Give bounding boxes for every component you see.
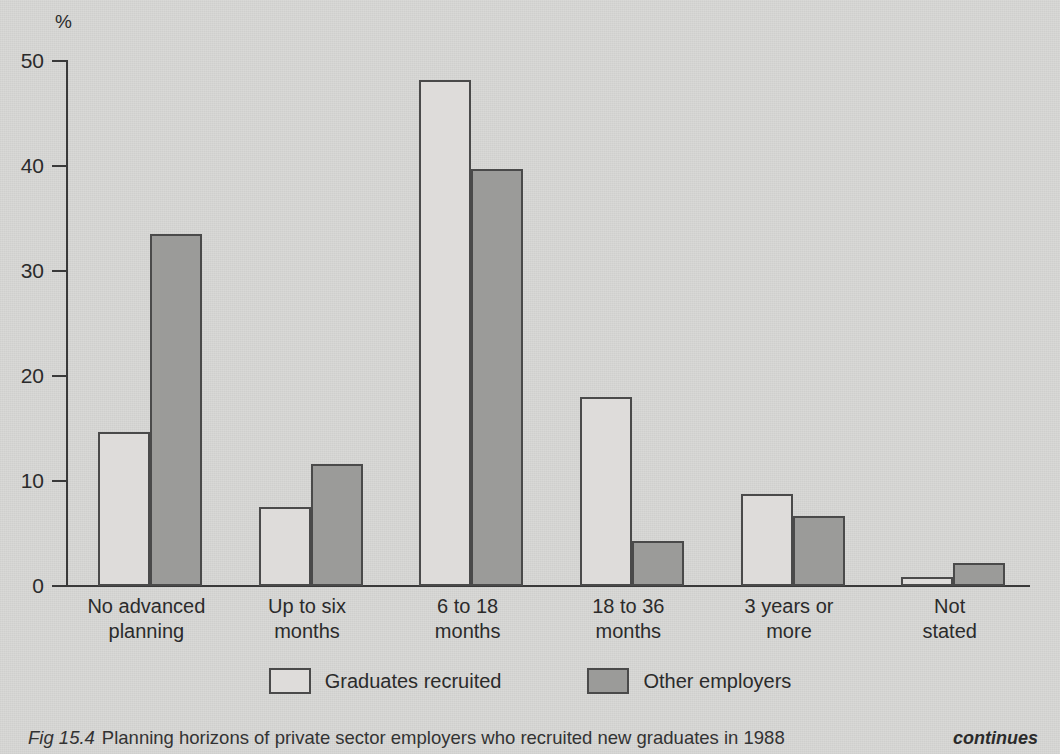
bar-0-3	[580, 397, 632, 586]
bar-0-1	[259, 507, 311, 586]
x-axis-category-label: Not stated	[869, 594, 1030, 644]
bar-0-5	[901, 577, 953, 586]
figure-caption-text: Planning horizons of private sector empl…	[102, 727, 785, 748]
figure-caption-row: Fig 15.4Planning horizons of private sec…	[28, 727, 1038, 749]
figure-container: % 50403020100 No advanced planningUp to …	[0, 0, 1060, 754]
bars-layer	[0, 0, 1060, 586]
x-axis-category-label: No advanced planning	[66, 594, 227, 644]
bar-1-5	[953, 563, 1005, 586]
bar-1-0	[150, 234, 202, 586]
bar-1-1	[311, 464, 363, 586]
x-axis-category-label: 6 to 18 months	[387, 594, 548, 644]
chart-legend: Graduates recruitedOther employers	[0, 668, 1060, 694]
legend-label: Other employers	[643, 671, 791, 691]
bar-0-0	[98, 432, 150, 586]
figure-number: Fig 15.4	[28, 727, 95, 748]
bar-0-2	[419, 80, 471, 586]
chart-plot-area: % 50403020100 No advanced planningUp to …	[0, 0, 1060, 754]
legend-entry: Other employers	[587, 668, 791, 694]
x-axis-category-label: 18 to 36 months	[548, 594, 709, 644]
gray-filled-swatch	[587, 668, 629, 694]
figure-caption: Fig 15.4Planning horizons of private sec…	[28, 727, 785, 749]
white-outline-swatch	[269, 668, 311, 694]
legend-entry: Graduates recruited	[269, 668, 502, 694]
x-axis-category-label: Up to six months	[227, 594, 388, 644]
x-axis-category-label: 3 years or more	[709, 594, 870, 644]
bar-1-3	[632, 541, 684, 586]
legend-label: Graduates recruited	[325, 671, 502, 691]
bar-1-4	[793, 516, 845, 586]
bar-1-2	[471, 169, 523, 586]
bar-0-4	[741, 494, 793, 586]
continues-note: continues	[953, 728, 1038, 749]
